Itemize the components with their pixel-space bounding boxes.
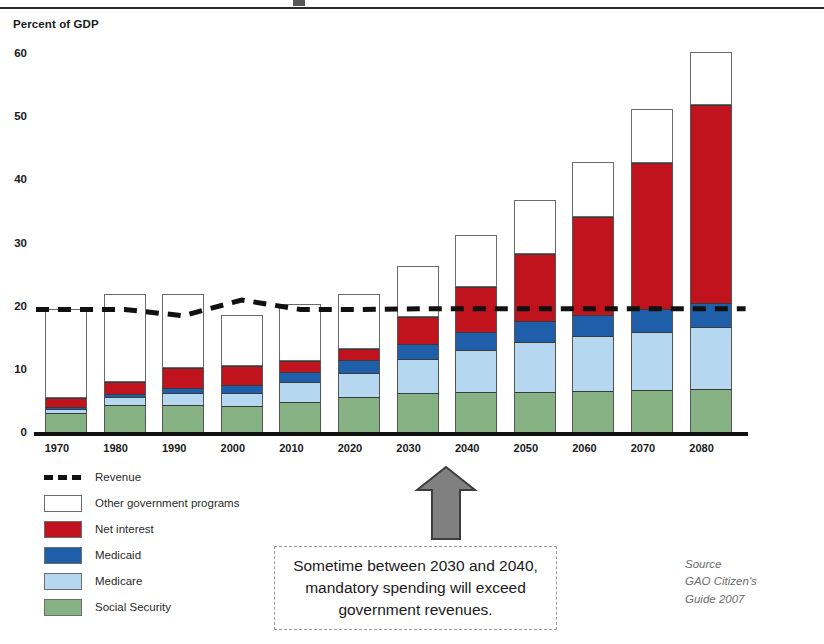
- bar-1980[interactable]: [104, 48, 146, 432]
- x-tick-2040: 2040: [437, 442, 497, 454]
- legend-label-other: Other government programs: [95, 497, 239, 509]
- bar-2010[interactable]: [279, 48, 321, 432]
- bar-segment-2050-medicare: [514, 342, 556, 392]
- x-tick-2010: 2010: [261, 442, 321, 454]
- bar-segment-1990-medicaid: [162, 388, 204, 393]
- legend-label-interest: Net interest: [95, 523, 154, 535]
- callout-line-3: government revenues.: [293, 599, 538, 621]
- legend-item-medicaid[interactable]: Medicaid: [44, 542, 294, 568]
- bar-2050[interactable]: [514, 48, 556, 432]
- bar-2080[interactable]: [690, 48, 732, 432]
- y-tick-20: 20: [14, 300, 27, 312]
- bar-segment-2040-medicare: [455, 350, 497, 392]
- bar-segment-1990-other-government-programs: [162, 294, 204, 369]
- bar-1990[interactable]: [162, 48, 204, 432]
- x-tick-2000: 2000: [203, 442, 263, 454]
- bar-segment-2050-medicaid: [514, 321, 556, 341]
- y-tick-30: 30: [14, 237, 27, 249]
- source-attribution: Source GAO Citizen's Guide 2007: [685, 556, 757, 608]
- x-tick-2050: 2050: [496, 442, 556, 454]
- x-tick-1990: 1990: [144, 442, 204, 454]
- x-tick-2080: 2080: [672, 442, 732, 454]
- bar-segment-2050-social-security: [514, 392, 556, 432]
- y-tick-40: 40: [14, 173, 27, 185]
- y-tick-10: 10: [14, 363, 27, 375]
- bar-2040[interactable]: [455, 48, 497, 432]
- bar-segment-2030-net-interest: [397, 317, 439, 344]
- bar-segment-2040-social-security: [455, 392, 497, 432]
- bar-segment-2000-other-government-programs: [221, 315, 263, 366]
- legend-item-other[interactable]: Other government programs: [44, 490, 294, 516]
- x-tick-1970: 1970: [27, 442, 87, 454]
- bar-segment-2060-medicare: [572, 336, 614, 391]
- up-arrow-annotation-icon: [414, 464, 478, 542]
- bar-segment-1980-social-security: [104, 405, 146, 432]
- bar-segment-2060-medicaid: [572, 315, 614, 336]
- bar-segment-2000-net-interest: [221, 366, 263, 385]
- bar-segment-1990-social-security: [162, 405, 204, 432]
- bar-segment-2010-medicare: [279, 382, 321, 402]
- bar-segment-2070-net-interest: [631, 163, 673, 309]
- bar-2000[interactable]: [221, 48, 263, 432]
- callout-text: Sometime between 2030 and 2040, mandator…: [293, 555, 538, 621]
- bar-segment-2080-social-security: [690, 389, 732, 432]
- bar-segment-2010-other-government-programs: [279, 304, 321, 361]
- bar-segment-1980-medicare: [104, 397, 146, 405]
- legend-label-medicaid: Medicaid: [95, 549, 141, 561]
- bar-segment-2030-medicare: [397, 359, 439, 392]
- bar-segment-1980-other-government-programs: [104, 294, 146, 382]
- legend-item-medicare[interactable]: Medicare: [44, 568, 294, 594]
- legend-item-interest[interactable]: Net interest: [44, 516, 294, 542]
- bar-segment-2010-net-interest: [279, 361, 321, 372]
- bar-segment-2050-net-interest: [514, 254, 556, 322]
- bar-2070[interactable]: [631, 48, 673, 432]
- title-descender-remnant: [293, 0, 305, 6]
- bar-segment-2000-medicaid: [221, 385, 263, 393]
- bar-2060[interactable]: [572, 48, 614, 432]
- bar-segment-2080-medicare: [690, 327, 732, 389]
- bar-segment-2020-net-interest: [338, 349, 380, 360]
- bar-segment-2010-social-security: [279, 402, 321, 432]
- legend-label-medicare: Medicare: [95, 575, 142, 587]
- bar-segment-2000-medicare: [221, 393, 263, 406]
- bar-segment-1980-net-interest: [104, 382, 146, 394]
- legend-label-ss: Social Security: [95, 601, 171, 613]
- x-tick-2020: 2020: [320, 442, 380, 454]
- y-tick-60: 60: [14, 47, 27, 59]
- legend-item-revenue[interactable]: Revenue: [44, 464, 294, 490]
- bar-segment-2070-medicaid: [631, 309, 673, 332]
- bar-segment-1970-social-security: [45, 413, 87, 432]
- bar-segment-2080-medicaid: [690, 303, 732, 327]
- legend-label-revenue: Revenue: [95, 471, 141, 483]
- bar-segment-2020-social-security: [338, 397, 380, 432]
- bar-segment-2070-other-government-programs: [631, 109, 673, 163]
- legend-swatch-revenue-icon: [44, 473, 82, 482]
- x-tick-2060: 2060: [554, 442, 614, 454]
- bar-segment-2070-medicare: [631, 332, 673, 391]
- legend-swatch-other-icon: [44, 495, 82, 512]
- source-line-3: Guide 2007: [685, 591, 757, 608]
- bar-segment-2070-social-security: [631, 390, 673, 432]
- header-rule: [0, 7, 824, 9]
- bar-2020[interactable]: [338, 48, 380, 432]
- bar-1970[interactable]: [45, 48, 87, 432]
- bar-segment-2030-other-government-programs: [397, 266, 439, 317]
- bar-segment-2020-other-government-programs: [338, 294, 380, 350]
- bar-segment-2050-other-government-programs: [514, 200, 556, 254]
- bar-segment-1990-medicare: [162, 393, 204, 404]
- bar-segment-1970-net-interest: [45, 398, 87, 407]
- bar-segment-1970-other-government-programs: [45, 309, 87, 398]
- legend-swatch-interest-icon: [44, 521, 82, 538]
- x-tick-1980: 1980: [86, 442, 146, 454]
- bar-segment-1970-medicaid: [45, 407, 87, 409]
- bar-segment-1980-medicaid: [104, 394, 146, 397]
- legend-item-ss[interactable]: Social Security: [44, 594, 294, 620]
- bar-2030[interactable]: [397, 48, 439, 432]
- bar-segment-2060-net-interest: [572, 217, 614, 314]
- legend-swatch-medicare-icon: [44, 573, 82, 590]
- bar-segment-2060-social-security: [572, 391, 614, 432]
- bar-segment-2060-other-government-programs: [572, 162, 614, 217]
- chart-plot-area: 0102030405060 19701980199020002010202020…: [36, 46, 808, 433]
- legend-swatch-ss-icon: [44, 599, 82, 616]
- legend-swatch-medicaid-icon: [44, 547, 82, 564]
